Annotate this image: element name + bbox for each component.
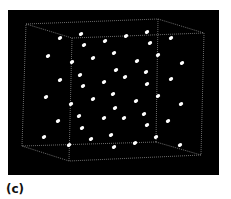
particle bbox=[69, 59, 75, 64]
particle bbox=[178, 101, 184, 106]
box-edge bbox=[26, 24, 72, 38]
particle bbox=[90, 55, 96, 60]
box-edge bbox=[22, 146, 69, 161]
simulation-box-panel bbox=[8, 10, 219, 175]
particle bbox=[41, 134, 47, 139]
panel-label: (c) bbox=[6, 182, 24, 196]
particle bbox=[144, 81, 150, 86]
box-edge bbox=[156, 19, 158, 142]
particle bbox=[68, 101, 74, 106]
box-edge bbox=[201, 33, 204, 155]
particle bbox=[144, 122, 150, 127]
box-edge bbox=[69, 155, 201, 161]
particle bbox=[133, 98, 139, 103]
particle bbox=[112, 105, 118, 110]
particle bbox=[168, 35, 174, 40]
particle bbox=[143, 69, 149, 74]
particle bbox=[81, 42, 87, 47]
particle bbox=[168, 76, 174, 81]
particle bbox=[147, 40, 153, 45]
particle bbox=[45, 53, 51, 58]
particle bbox=[110, 91, 116, 96]
particle bbox=[78, 31, 84, 36]
particle bbox=[155, 93, 161, 98]
box-edge bbox=[156, 142, 201, 155]
particle bbox=[101, 79, 107, 84]
particle bbox=[132, 140, 138, 145]
box-edge bbox=[69, 38, 72, 161]
particle bbox=[177, 142, 183, 147]
particle bbox=[144, 29, 150, 34]
particle bbox=[77, 72, 83, 77]
particle bbox=[141, 111, 147, 116]
particle bbox=[101, 115, 107, 120]
particle bbox=[165, 118, 171, 123]
particle bbox=[88, 136, 94, 141]
particle bbox=[134, 58, 140, 63]
particle bbox=[43, 94, 49, 99]
box-edge bbox=[158, 19, 204, 33]
box-edge bbox=[22, 24, 26, 146]
particle bbox=[57, 77, 63, 82]
particle bbox=[76, 113, 82, 118]
particle bbox=[79, 125, 85, 130]
particle-box-visualization bbox=[8, 10, 219, 175]
particle bbox=[155, 52, 161, 57]
particle bbox=[108, 132, 114, 137]
particle bbox=[102, 38, 108, 43]
particle bbox=[80, 83, 86, 88]
particle bbox=[113, 67, 119, 72]
particle bbox=[123, 33, 129, 38]
particle bbox=[55, 118, 61, 123]
particle bbox=[57, 35, 63, 40]
particle bbox=[111, 50, 117, 55]
particle bbox=[122, 74, 128, 79]
box-edge bbox=[72, 33, 204, 38]
particle bbox=[121, 115, 127, 120]
box-edge bbox=[26, 19, 158, 24]
particle bbox=[111, 144, 117, 149]
particle bbox=[179, 60, 185, 65]
particle bbox=[90, 96, 96, 101]
